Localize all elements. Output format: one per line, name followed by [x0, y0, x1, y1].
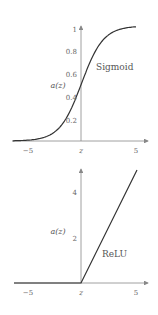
relu-xtick-max: 5 [134, 289, 138, 297]
sigmoid-ytick-0.6: 0.6 [66, 71, 78, 79]
sigmoid-chart: 1 0.8 0.6 0.4 0.2 −5 z 5 a(z) Sigmoid [12, 26, 148, 155]
relu-line [14, 170, 137, 283]
sigmoid-ytick-0.4: 0.4 [66, 94, 78, 102]
relu-chart: 4 2 −5 z 5 a(z) ReLU [14, 169, 148, 297]
sigmoid-xlabel: z [78, 147, 83, 155]
sigmoid-xtick-min: −5 [23, 147, 33, 155]
relu-ytick-2: 2 [73, 235, 77, 243]
sigmoid-xtick-max: 5 [134, 147, 138, 155]
relu-ytick-4: 4 [73, 189, 78, 197]
sigmoid-ytick-0.2: 0.2 [66, 117, 77, 125]
sigmoid-ytick-1: 1 [73, 26, 77, 34]
relu-ylabel: a(z) [50, 227, 65, 236]
activation-functions-figure: 1 0.8 0.6 0.4 0.2 −5 z 5 a(z) Sigmoid 4 … [0, 0, 158, 315]
sigmoid-ylabel: a(z) [50, 81, 65, 90]
relu-name-label: ReLU [102, 249, 128, 259]
sigmoid-name-label: Sigmoid [96, 62, 134, 72]
sigmoid-ytick-0.8: 0.8 [66, 48, 77, 56]
relu-xlabel: z [78, 289, 83, 297]
relu-xtick-min: −5 [23, 289, 33, 297]
